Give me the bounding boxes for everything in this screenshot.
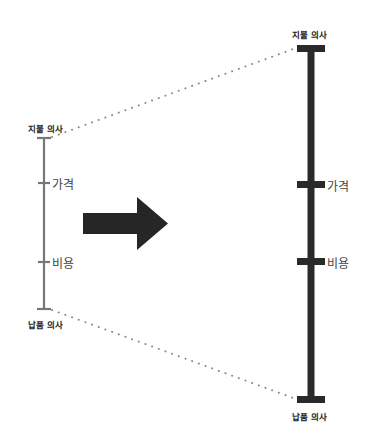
left-scale (37, 138, 51, 309)
right-tick-cost (297, 258, 325, 265)
left-tick-label-cost: 비용 (52, 254, 74, 271)
right-scale (297, 45, 325, 403)
right-bottom-label: 납품 의사 (292, 410, 327, 422)
right-tick-label-price: 가격 (327, 177, 349, 194)
right-tick-price (297, 181, 325, 188)
left-bottom-label: 납품 의사 (28, 318, 63, 330)
right-top-label: 지불 의사 (292, 28, 327, 40)
top-dotted-connector (52, 48, 296, 137)
right-arrow-icon (83, 197, 168, 250)
right-scale-bottom-cap (297, 396, 325, 403)
bottom-dotted-connector (52, 310, 296, 399)
diagram-canvas (0, 0, 373, 448)
right-tick-label-cost: 비용 (327, 254, 349, 271)
left-tick-label-price: 가격 (52, 175, 74, 192)
right-scale-top-cap (297, 45, 325, 52)
left-top-label: 지불 의사 (28, 122, 63, 134)
